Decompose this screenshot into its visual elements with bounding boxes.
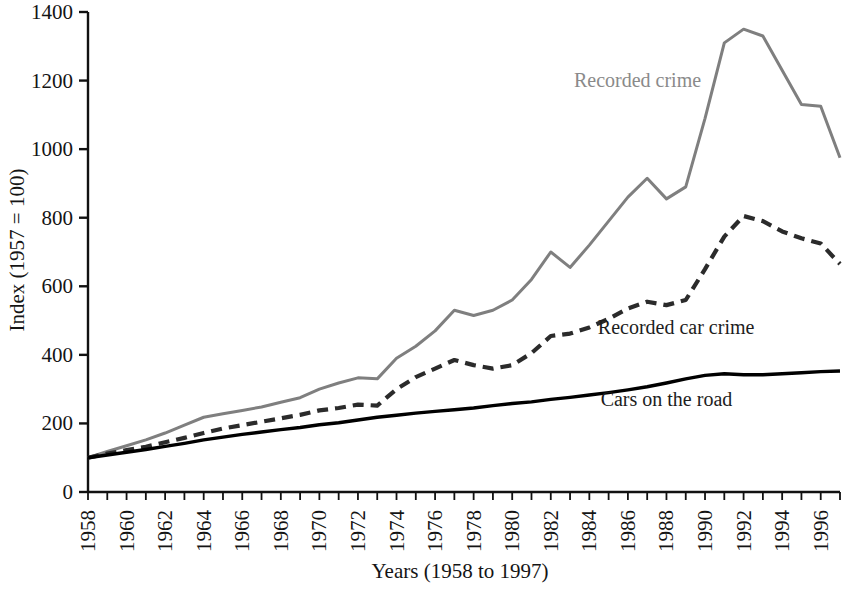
- y-axis-tick-label: 600: [42, 274, 74, 298]
- y-axis-tick-label: 1400: [31, 0, 73, 24]
- y-axis-tick-label: 400: [42, 343, 74, 367]
- x-axis-tick-label: 1964: [192, 510, 216, 553]
- x-axis-tick-label: 1970: [307, 510, 331, 552]
- y-axis-tick-label: 800: [42, 206, 74, 230]
- x-axis-tick-label: 1968: [269, 510, 293, 552]
- x-axis-tick-label: 1958: [76, 510, 100, 552]
- x-axis-tick-label: 1974: [385, 510, 409, 553]
- x-axis-tick-label: 1986: [616, 510, 640, 552]
- x-axis-tick-label: 1976: [423, 510, 447, 552]
- x-axis-tick-label: 1996: [809, 510, 833, 552]
- x-axis-tick-label: 1960: [115, 510, 139, 552]
- x-axis-tick-label: 1984: [577, 510, 601, 553]
- series-label-cars-on-the-road: Cars on the road: [601, 388, 733, 410]
- x-axis-tick-label: 1972: [346, 510, 370, 552]
- x-axis-tick-label: 1978: [462, 510, 486, 552]
- x-axis-tick-label: 1988: [654, 510, 678, 552]
- chart-container: 0200400600800100012001400 19581960196219…: [0, 0, 845, 589]
- line-chart: 0200400600800100012001400 19581960196219…: [0, 0, 845, 589]
- x-axis-tick-label: 1994: [770, 510, 794, 553]
- y-axis-title: Index (1957 = 100): [5, 169, 29, 332]
- series-label-recorded-car-crime: Recorded car crime: [598, 316, 755, 338]
- x-axis-tick-label: 1990: [693, 510, 717, 552]
- x-axis-tick-label: 1982: [539, 510, 563, 552]
- chart-background: [0, 0, 845, 589]
- y-axis-tick-label: 1000: [31, 137, 73, 161]
- x-axis-tick-label: 1980: [500, 510, 524, 552]
- y-axis-tick-label: 0: [63, 480, 74, 504]
- y-axis-tick-label: 200: [42, 411, 74, 435]
- x-axis-tick-label: 1992: [732, 510, 756, 552]
- x-axis-tick-label: 1966: [230, 510, 254, 552]
- x-axis-title: Years (1958 to 1997): [372, 559, 549, 583]
- series-label-recorded-crime: Recorded crime: [574, 69, 701, 91]
- y-axis-tick-label: 1200: [31, 69, 73, 93]
- x-axis-tick-label: 1962: [153, 510, 177, 552]
